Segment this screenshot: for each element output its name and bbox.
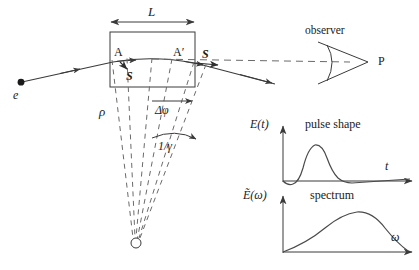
synchrotron-radiation-figure: L A A′ S S e ρ Δφ 1/γ observer P E(t) pu… — [0, 0, 419, 270]
electron-trajectory — [18, 59, 275, 86]
observer-label: observer — [305, 25, 345, 37]
poynting-outside-label: S — [202, 48, 209, 60]
pulse-shape-plot — [283, 126, 412, 185]
observer-eye — [318, 42, 368, 84]
spectrum-plot — [283, 196, 412, 253]
spectrum-title: spectrum — [310, 189, 354, 201]
pulse-xlabel: t — [385, 160, 388, 172]
poynting-inside-label: S — [126, 70, 133, 82]
electron-dot — [18, 79, 25, 86]
figure-vector-graphics — [0, 0, 419, 270]
poynting-vector-inside-arrow — [120, 62, 127, 69]
point-a-label: A — [114, 46, 123, 58]
point-a-prime-label: A′ — [173, 46, 184, 58]
delta-phi-label: Δφ — [155, 104, 169, 116]
spectrum-xlabel: ω — [391, 231, 399, 243]
pulse-title: pulse shape — [305, 118, 361, 130]
one-over-gamma-label: 1/γ — [158, 140, 172, 152]
observer-point-label: P — [378, 55, 385, 67]
spectrum-ylabel: Ẽ(ω) — [243, 189, 267, 201]
radius-label: ρ — [99, 105, 105, 118]
center-of-curvature-marker — [131, 238, 141, 248]
pulse-ylabel: E(t) — [250, 118, 269, 130]
electron-label: e — [13, 89, 18, 101]
length-label: L — [148, 5, 155, 18]
